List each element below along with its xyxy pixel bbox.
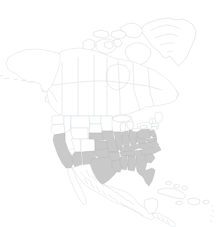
state-wyoming — [71, 128, 88, 139]
state-colorado — [81, 139, 95, 152]
state-maine — [155, 112, 163, 123]
alaska-mainland — [6, 49, 60, 92]
cuba-island — [158, 188, 186, 199]
country-canada — [47, 48, 178, 116]
region-caribbean — [158, 181, 214, 222]
central-america-isthmus — [152, 213, 176, 227]
province-canada-mainland — [47, 48, 178, 116]
state-kansas — [95, 141, 108, 150]
region-central-america — [152, 213, 176, 227]
hispaniola-island — [188, 198, 200, 205]
state-montana — [71, 116, 90, 128]
puerto-rico-island — [203, 200, 210, 204]
state-arizona — [72, 152, 82, 167]
map-canvas — [0, 0, 216, 227]
jamaica-island — [176, 201, 183, 205]
country-united-states — [51, 112, 163, 186]
state-alabama — [128, 156, 136, 171]
state-minnesota — [101, 116, 113, 131]
lesser-antilles-islands — [210, 205, 214, 222]
state-florida — [137, 168, 155, 186]
north-america-choropleth-map — [0, 0, 216, 227]
state-washington — [52, 115, 64, 125]
state-south-dakota — [89, 124, 102, 133]
state-north-dakota — [89, 116, 101, 124]
country-greenland — [141, 18, 196, 66]
state-iowa — [102, 131, 114, 140]
melville-island — [93, 30, 109, 38]
